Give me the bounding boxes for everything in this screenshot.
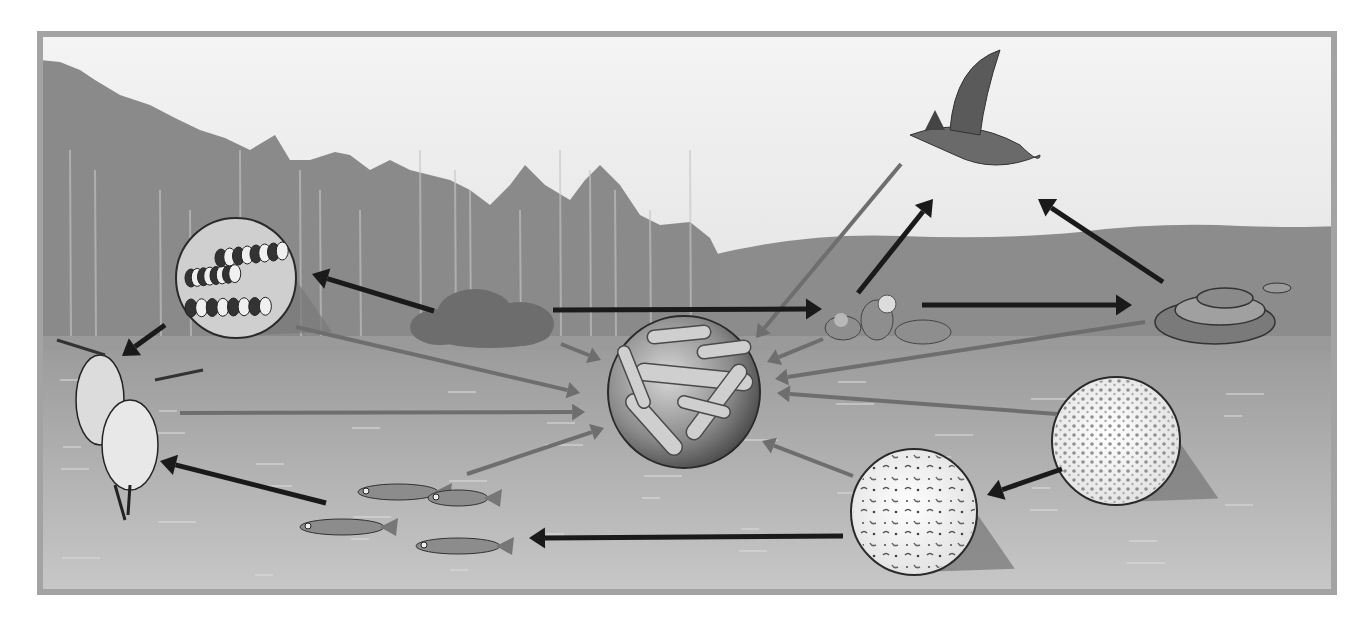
food-web-canvas [0, 0, 1371, 618]
food-web-diagram [0, 0, 1371, 618]
bacteria-circle [608, 316, 760, 468]
phytoplankton-circle [1052, 377, 1180, 505]
zooplankton-circle [851, 449, 977, 575]
caterpillars-circle [176, 218, 296, 338]
